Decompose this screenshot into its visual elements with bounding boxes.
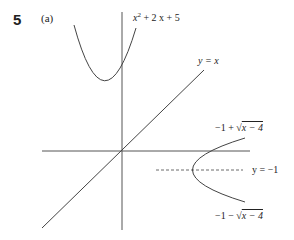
label-lower-branch: −1 − √x − 4 [215,211,263,221]
label-asymptote: y = −1 [252,165,278,175]
label-line: y = x [198,56,219,66]
label-upper-branch: −1 + √x − 4 [215,123,263,133]
parabola-curve [74,25,136,81]
line-y-equals-x [42,70,204,228]
label-parabola: x2 + 2 x + 5 [133,12,180,23]
graph [0,0,294,240]
